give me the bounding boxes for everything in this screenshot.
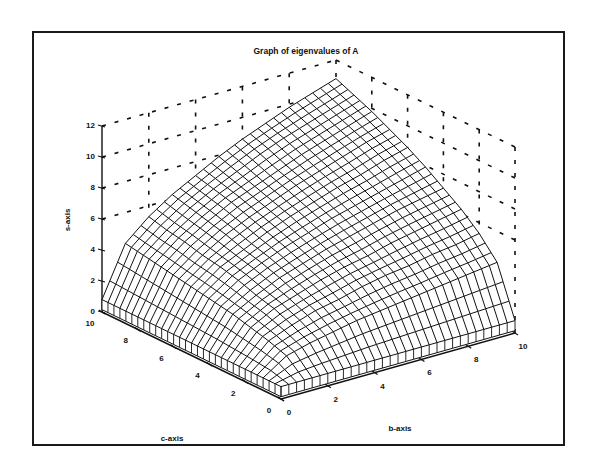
x-tick-label: 0 [287,408,292,417]
z-tick-label: 8 [91,183,96,192]
y-tick-label: 2 [231,389,236,398]
z-axis-label: s-axis [63,208,72,231]
z-tick-label: 12 [86,121,95,130]
surface-plot: Graph of eigenvalues of A 02468101202468… [0,0,592,470]
x-axis-label: b-axis [388,424,412,433]
z-tick-label: 0 [91,307,96,316]
y-tick-label: 8 [124,336,129,345]
z-tick-label: 10 [86,152,95,161]
y-tick-label: 10 [86,319,95,328]
x-tick-label: 2 [334,395,339,404]
x-tick-label: 10 [519,342,528,351]
y-axis-label: c-axis [161,434,184,443]
x-tick-label: 4 [380,382,385,391]
chart-title: Graph of eigenvalues of A [253,46,358,56]
y-tick-label: 6 [159,354,164,363]
surface-mesh [102,79,515,397]
z-tick-label: 2 [91,276,96,285]
z-tick-label: 6 [91,214,96,223]
z-tick-label: 4 [91,245,96,254]
y-tick-label: 0 [267,406,272,415]
y-tick-label: 4 [195,371,200,380]
x-tick-label: 6 [427,368,432,377]
x-tick-label: 8 [474,355,479,364]
